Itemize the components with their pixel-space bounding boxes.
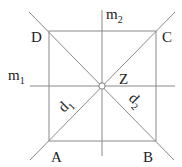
symmetry-diagram: D C A B Z m2 m1 d1 d2 — [0, 0, 182, 167]
vertex-label-d: D — [31, 29, 42, 45]
axis-label-d1: d1 — [55, 95, 77, 117]
axis-label-m1-sub: 1 — [20, 75, 25, 86]
axis-label-d2: d2 — [124, 90, 146, 112]
axis-label-m2-sub: 2 — [118, 14, 123, 25]
vertex-label-b: B — [143, 149, 153, 165]
axis-label-m2-main: m — [106, 6, 118, 22]
vertex-label-c: C — [162, 29, 172, 45]
axis-label-m1: m1 — [8, 67, 25, 86]
vertex-label-a: A — [51, 149, 62, 165]
axis-label-m2: m2 — [106, 6, 123, 25]
diagram-canvas: D C A B Z m2 m1 d1 d2 — [0, 0, 182, 167]
center-label-z: Z — [119, 71, 128, 87]
axis-label-m1-main: m — [8, 67, 20, 83]
center-point-z — [99, 83, 105, 89]
